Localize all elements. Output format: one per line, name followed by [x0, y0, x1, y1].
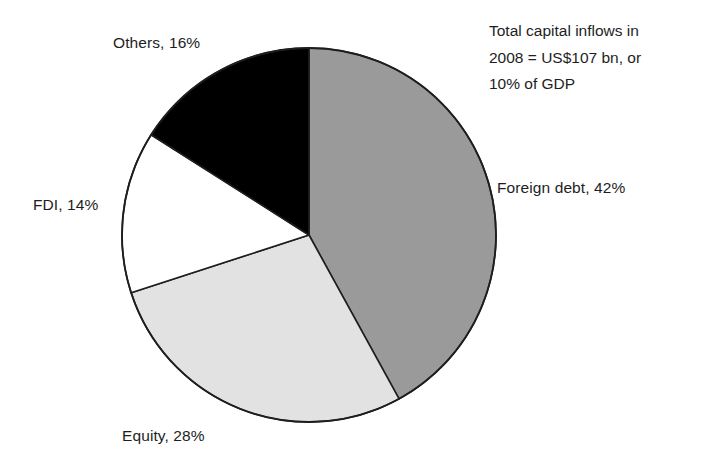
annotation-line-2: 2008 = US$107 bn, or: [489, 45, 704, 72]
chart-annotation: Total capital inflows in 2008 = US$107 b…: [489, 18, 704, 98]
annotation-line-3: 10% of GDP: [489, 71, 704, 98]
pie-label-fdi: FDI, 14%: [33, 196, 98, 214]
pie-label-foreign-debt: Foreign debt, 42%: [497, 179, 625, 197]
pie-label-others: Others, 16%: [113, 34, 200, 52]
chart-canvas: Others, 16% FDI, 14% Equity, 28% Foreign…: [0, 0, 715, 474]
annotation-line-1: Total capital inflows in: [489, 18, 704, 45]
pie-slices: [122, 48, 496, 422]
pie-label-equity: Equity, 28%: [122, 427, 205, 445]
